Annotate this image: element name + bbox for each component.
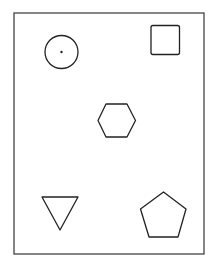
hexagon-shape	[98, 104, 136, 137]
triangle-shape	[42, 197, 78, 230]
frame	[14, 13, 204, 254]
shapes-diagram	[0, 0, 217, 268]
circle-shape	[45, 36, 78, 69]
square-shape	[151, 26, 180, 55]
pentagon-shape	[141, 192, 187, 237]
center-dot	[60, 51, 62, 53]
